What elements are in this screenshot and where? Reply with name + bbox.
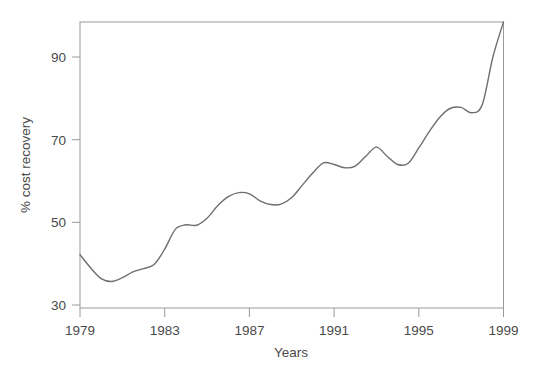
x-axis-ticks [80, 308, 504, 317]
x-tick-label-1995: 1995 [404, 323, 434, 338]
data-line-cost-recovery [80, 22, 504, 282]
y-tick-label-90: 90 [51, 50, 66, 65]
y-axis-ticks [72, 57, 80, 305]
plot-frame [80, 22, 504, 308]
chart-figure: 90 70 50 30 1979 1983 1987 1991 1995 199… [0, 0, 537, 369]
x-axis-title: Years [274, 345, 308, 360]
y-tick-label-70: 70 [51, 133, 66, 148]
line-chart: 90 70 50 30 1979 1983 1987 1991 1995 199… [0, 0, 537, 369]
y-tick-label-30: 30 [51, 298, 66, 313]
y-tick-label-50: 50 [51, 215, 66, 230]
x-tick-label-1991: 1991 [319, 323, 349, 338]
x-tick-label-1999: 1999 [488, 323, 518, 338]
y-axis-title: % cost recovery [18, 117, 33, 213]
x-tick-label-1987: 1987 [234, 323, 264, 338]
x-tick-label-1979: 1979 [65, 323, 95, 338]
x-tick-label-1983: 1983 [150, 323, 180, 338]
